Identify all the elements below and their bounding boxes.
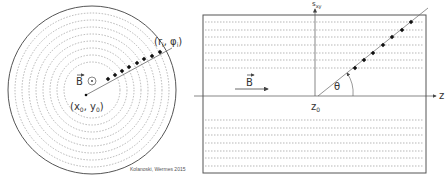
detector-ring (57, 55, 127, 125)
hit-marker (120, 69, 125, 74)
field-label-b: B (246, 77, 253, 88)
hit-marker (127, 65, 132, 70)
attribution-credit: Kolanoski, Wermes 2015 (130, 166, 186, 172)
helix-track-diagram: B (x0, y0) (ri, φi) Kolanoski, Wermes 20… (0, 0, 447, 179)
theta-label: θ (334, 81, 340, 92)
hit-marker (150, 54, 155, 59)
hit-marker (400, 28, 405, 33)
detector-layer-lines (205, 22, 424, 166)
detector-layer-rings (15, 13, 169, 167)
transverse-view-panel: B (x0, y0) (ri, φi) Kolanoski, Wermes 20… (8, 6, 186, 174)
hit-marker (362, 58, 367, 63)
track-origin-point (85, 94, 88, 97)
hit-coordinate-label: (ri, φi) (154, 36, 182, 48)
outer-detector-boundary (8, 6, 176, 174)
detector-ring (36, 34, 148, 146)
longitudinal-view-panel: z sxy θ z0 B (194, 0, 444, 173)
detector-ring (29, 27, 155, 153)
field-label-b: B (76, 76, 83, 87)
origin-label: (x0, y0) (70, 101, 104, 113)
detector-ring (15, 13, 169, 167)
hit-marker (106, 77, 111, 82)
angle-arc (347, 73, 353, 96)
detector-ring (50, 48, 134, 132)
track-projection-line (86, 48, 172, 95)
hit-marker (135, 61, 140, 66)
z0-label: z0 (311, 101, 320, 113)
hit-marker (113, 73, 118, 78)
hit-marker (381, 43, 386, 48)
s-axis-label: sxy (312, 0, 322, 10)
hit-marker (353, 66, 358, 71)
z-axis-label: z (439, 90, 444, 101)
hit-marker (371, 51, 376, 56)
detector-ring (43, 41, 141, 139)
